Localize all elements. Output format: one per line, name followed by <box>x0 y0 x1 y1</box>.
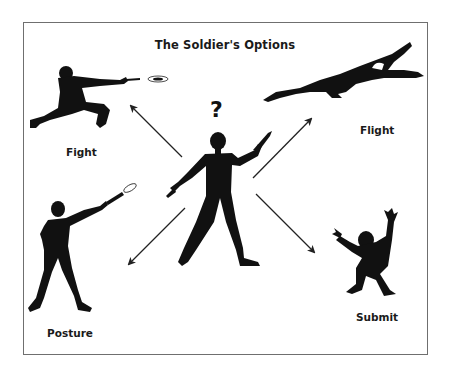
fight-soldier-figure <box>30 66 168 128</box>
option-label-flight: Flight <box>360 124 394 136</box>
arrow-to-fight <box>131 106 182 157</box>
center-soldier-figure <box>166 131 272 266</box>
question-mark-symbol: ? <box>210 97 223 122</box>
submit-soldier-figure <box>332 208 398 296</box>
arrow-to-posture <box>129 208 185 264</box>
arrow-to-flight <box>253 119 311 178</box>
option-label-fight: Fight <box>66 146 97 158</box>
arrow-to-submit <box>256 194 314 252</box>
option-label-posture: Posture <box>47 327 93 339</box>
posture-soldier-figure <box>28 182 138 312</box>
flight-soldier-figure <box>263 42 424 102</box>
option-label-submit: Submit <box>356 311 398 323</box>
